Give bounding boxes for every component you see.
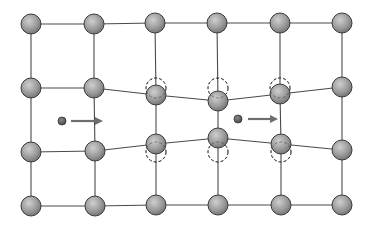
atom [332,195,352,215]
atom [85,196,105,216]
bond-line [155,23,156,95]
atom [271,195,291,215]
atom [270,13,290,33]
atom [85,141,105,161]
atom [21,142,41,162]
interstitial-atom [234,115,242,123]
arrowhead-icon [270,115,278,123]
atom [84,14,104,34]
lattice-diagram [0,0,370,226]
atom [146,195,166,215]
atom [332,77,352,97]
atom [21,14,41,34]
atom [270,84,290,104]
arrowhead-icon [95,117,103,125]
atom [332,140,352,160]
atom [145,13,165,33]
atom [208,195,228,215]
atom [208,128,228,148]
interstitial-atom [58,117,66,125]
interstitial-atoms [58,115,278,125]
atom [208,91,228,111]
atom [207,13,227,33]
bond-lines [31,23,342,206]
lattice-atoms [21,13,352,216]
atom [271,134,291,154]
atom [146,134,166,154]
bond-line [217,23,218,101]
atom [21,196,41,216]
atom [332,13,352,33]
atom [84,78,104,98]
atom [21,78,41,98]
